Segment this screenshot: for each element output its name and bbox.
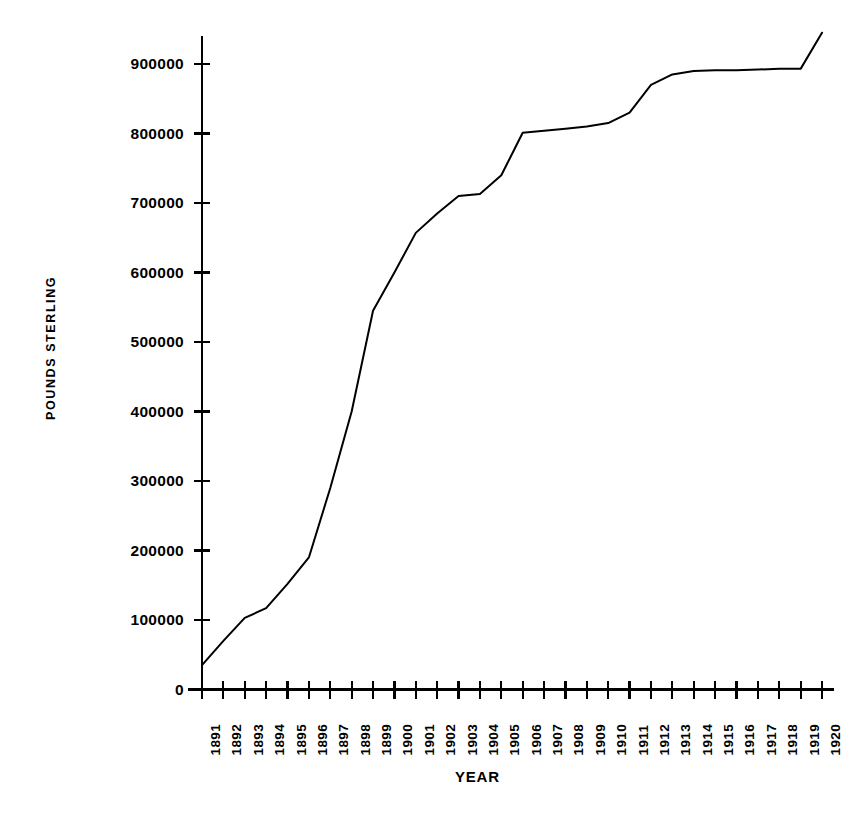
x-axis-tick-label: 1902: [443, 724, 458, 756]
x-axis-tick-label: 1894: [272, 724, 287, 756]
x-axis-tick-label: 1915: [721, 724, 736, 756]
x-axis-tick-label: 1910: [614, 724, 629, 756]
x-axis-title: YEAR: [455, 768, 500, 785]
x-axis-tick-label: 1896: [315, 724, 330, 756]
y-axis-tick-label: 800000: [130, 125, 184, 143]
x-axis-tick-label: 1903: [465, 724, 480, 756]
x-axis-tick-label: 1905: [507, 724, 522, 756]
x-axis-tick-label: 1901: [422, 724, 437, 756]
x-axis-tick-label: 1906: [529, 724, 544, 756]
y-axis-tick-label: 200000: [130, 542, 184, 560]
x-axis-tick-label: 1892: [229, 724, 244, 756]
x-axis-tick-label: 1904: [486, 724, 501, 756]
x-axis-tick-label: 1895: [294, 724, 309, 756]
x-axis-tick-label: 1908: [571, 724, 586, 756]
chart-figure: POUNDS STERLING YEAR 0100000200000300000…: [0, 0, 856, 814]
x-axis-tick-label: 1898: [358, 724, 373, 756]
y-axis-tick-label: 900000: [130, 55, 184, 73]
chart-axes: [188, 36, 834, 698]
x-axis-tick-label: 1913: [678, 724, 693, 756]
x-axis-tick-label: 1899: [379, 724, 394, 756]
y-axis-tick-label: 300000: [130, 472, 184, 490]
chart-series-line: [202, 33, 822, 665]
x-axis-tick-label: 1914: [700, 724, 715, 756]
y-axis-tick-label: 0: [175, 681, 184, 699]
y-axis-tick-label: 600000: [130, 264, 184, 282]
x-axis-tick-label: 1909: [593, 724, 608, 756]
y-axis-tick-label: 700000: [130, 194, 184, 212]
x-axis-tick-label: 1916: [742, 724, 757, 756]
x-axis-tick-label: 1891: [208, 724, 223, 756]
x-axis-tick-label: 1920: [828, 724, 843, 756]
chart-plot-area: [0, 0, 856, 814]
x-axis-tick-label: 1918: [785, 724, 800, 756]
x-axis-tick-label: 1897: [336, 724, 351, 756]
x-axis-tick-label: 1911: [636, 725, 651, 756]
x-axis-tick-label: 1912: [657, 724, 672, 756]
y-axis-tick-label: 100000: [130, 611, 184, 629]
x-axis-tick-label: 1907: [550, 724, 565, 756]
y-axis-tick-label: 500000: [130, 333, 184, 351]
x-axis-tick-label: 1893: [251, 724, 266, 756]
x-axis-tick-label: 1919: [807, 724, 822, 756]
y-axis-tick-label: 400000: [130, 403, 184, 421]
x-axis-tick-label: 1900: [400, 724, 415, 756]
x-axis-tick-label: 1917: [764, 724, 779, 756]
y-axis-title-text: POUNDS STERLING: [44, 276, 58, 420]
